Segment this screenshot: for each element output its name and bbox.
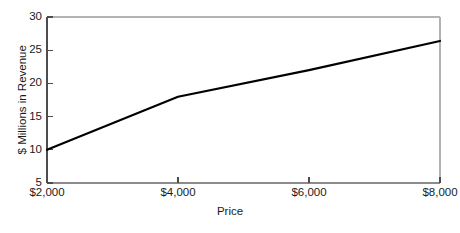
x-tick-label-8000: $8,000 bbox=[405, 187, 460, 199]
line-chart: 30 25 20 15 10 5 $2,000 $4,000 $6,000 $8… bbox=[0, 0, 460, 233]
y-axis-title: $ Millions in Revenue bbox=[17, 15, 29, 185]
revenue-line bbox=[47, 41, 440, 150]
x-axis-title: Price bbox=[0, 206, 460, 218]
y-tick-marks bbox=[47, 17, 53, 183]
x-tick-label-2000: $2,000 bbox=[12, 187, 82, 199]
x-tick-label-6000: $6,000 bbox=[274, 187, 344, 199]
x-tick-label-4000: $4,000 bbox=[143, 187, 213, 199]
x-tick-marks bbox=[47, 177, 440, 183]
